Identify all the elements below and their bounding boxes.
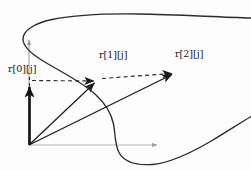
vector-diagram-svg — [0, 0, 251, 170]
vector-r1 — [29, 83, 95, 145]
vector-r2 — [29, 75, 172, 146]
trajectory-curve — [23, 14, 251, 165]
label-r0-text: r[0][j] — [8, 63, 36, 74]
position-vectors-group — [29, 75, 172, 146]
label-r1: r[1][j] — [99, 50, 127, 60]
label-r2-text: r[2][j] — [175, 48, 203, 59]
label-r0: r[0][j] — [8, 64, 36, 74]
label-r1-text: r[1][j] — [99, 49, 127, 60]
figure-canvas: r[0][j] r[1][j] r[2][j] — [0, 0, 251, 170]
dashed-guides-group — [30, 74, 173, 145]
label-r2: r[2][j] — [175, 49, 203, 59]
difference-vector-r1-r2 — [102, 74, 172, 79]
difference-vector-r0-r1 — [32, 81, 94, 82]
trajectory-curve-group — [23, 14, 251, 165]
